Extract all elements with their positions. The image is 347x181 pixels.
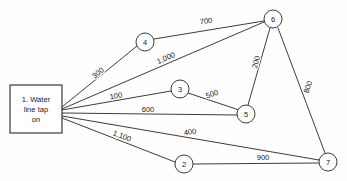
node-3-label: 3 <box>178 85 182 94</box>
node-6-label: 6 <box>271 15 275 24</box>
source-node-line-1: 1. Water <box>22 95 51 104</box>
edge-box-5-weight: 600 <box>142 105 155 114</box>
node-4-label: 4 <box>143 38 147 47</box>
edge-4-6-weight: 700 <box>199 16 213 26</box>
node-2-label: 2 <box>182 160 186 169</box>
edge-box-2 <box>62 118 175 162</box>
node-7-label: 7 <box>326 158 330 167</box>
edge-box-7-weight: 400 <box>183 127 197 138</box>
source-node-layer: 1. Waterline tapon <box>10 85 62 133</box>
edge-box-4-weight: 300 <box>90 66 106 81</box>
edge-2-7-weight: 900 <box>257 153 270 162</box>
edge-6-7-weight: 800 <box>302 80 315 95</box>
network-canvas: 1. Waterline tapon 234567 3003007007001,… <box>0 0 347 181</box>
edge-box-6 <box>62 22 264 109</box>
edge-3-5-weight: 500 <box>205 88 220 101</box>
edge-2-7 <box>193 163 319 164</box>
edge-box-6-weight: 1,000 <box>155 50 176 66</box>
edges-layer <box>62 21 325 164</box>
node-5-label: 5 <box>244 110 248 119</box>
source-node-line-2: line tap <box>24 105 49 114</box>
network-diagram: 1. Waterline tapon 234567 3003007007001,… <box>0 0 347 181</box>
edge-box-7 <box>62 116 319 160</box>
source-node-line-3: on <box>32 115 40 124</box>
edge-5-6-weight: 200 <box>250 55 262 70</box>
